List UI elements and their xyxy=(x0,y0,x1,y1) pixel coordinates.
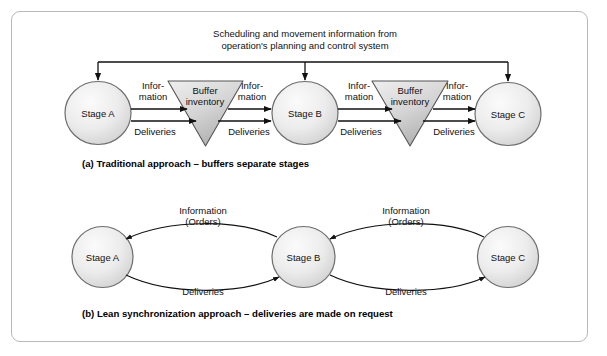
buffer-inventory-2-line1: Buffer xyxy=(391,85,430,96)
link-a-b-panel-b xyxy=(126,224,279,291)
stage-a-node-panel-a: Stage A xyxy=(65,82,131,145)
diagram-canvas: Stage A Stage B Stage C xyxy=(0,0,607,356)
link-b-c-information-line2: (Orders) xyxy=(382,216,430,227)
link-a-b-information-line2: (Orders) xyxy=(179,216,227,227)
stage-b-node-panel-b: Stage B xyxy=(272,227,335,288)
stage-b-label-panel-a: Stage B xyxy=(288,108,322,119)
stage-c-node-panel-a: Stage C xyxy=(475,83,541,146)
flow-3-information-line1: Infor- xyxy=(345,80,374,91)
link-b-c-panel-b xyxy=(330,224,485,291)
panel-a-caption: (a) Traditional approach – buffers separ… xyxy=(82,158,309,169)
figure-root: Stage A Stage B Stage C xyxy=(0,0,607,356)
buffer-inventory-2-label: Buffer inventory xyxy=(391,85,430,107)
flow-4-deliveries-label: Deliveries xyxy=(433,126,475,137)
flow-1-information-line2: mation xyxy=(139,91,168,102)
flow-2-deliveries-label: Deliveries xyxy=(228,126,270,137)
flow-2-information-line2: mation xyxy=(238,91,267,102)
flow-4-information-line2: mation xyxy=(443,91,472,102)
flow-3-information-label: Infor- mation xyxy=(345,80,374,102)
stage-b-label-panel-b: Stage B xyxy=(287,252,321,263)
flow-1-information-label: Infor- mation xyxy=(139,80,168,102)
buffer-inventory-1-line2: inventory xyxy=(186,96,225,107)
buffer-inventory-1-label: Buffer inventory xyxy=(186,85,225,107)
flow-4-information-label: Infor- mation xyxy=(443,80,472,102)
link-b-c-information-label: Information (Orders) xyxy=(382,205,430,227)
link-b-c-information-line1: Information xyxy=(382,205,430,216)
link-a-b-information-line1: Information xyxy=(179,205,227,216)
control-bus-header-line2: operation's planning and control system xyxy=(213,40,397,52)
stage-a-label-panel-a: Stage A xyxy=(81,108,115,119)
control-bus-header-line1: Scheduling and movement information from xyxy=(213,28,397,40)
link-a-b-deliveries-label: Deliveries xyxy=(182,286,224,297)
buffer-inventory-1-line1: Buffer xyxy=(186,85,225,96)
link-b-c-deliveries-label: Deliveries xyxy=(385,286,427,297)
stage-a-label-panel-b: Stage A xyxy=(86,252,120,263)
flow-4-information-line1: Infor- xyxy=(443,80,472,91)
stage-c-node-panel-b: Stage C xyxy=(478,227,539,288)
link-a-b-information-label: Information (Orders) xyxy=(179,205,227,227)
flow-1-deliveries-label: Deliveries xyxy=(134,126,176,137)
stage-b-node-panel-a: Stage B xyxy=(272,82,338,145)
flow-1-information-line1: Infor- xyxy=(139,80,168,91)
stage-c-label-panel-a: Stage C xyxy=(491,109,525,120)
flow-2-information-line1: Infor- xyxy=(238,80,267,91)
stage-a-node-panel-b: Stage A xyxy=(72,227,133,288)
flow-3-information-line2: mation xyxy=(345,91,374,102)
stage-c-label-panel-b: Stage C xyxy=(491,252,525,263)
control-bus xyxy=(98,62,508,81)
control-bus-header: Scheduling and movement information from… xyxy=(213,28,397,52)
buffer-inventory-2-line2: inventory xyxy=(391,96,430,107)
panel-b-caption: (b) Lean synchronization approach – deli… xyxy=(82,308,393,319)
flow-3-deliveries-label: Deliveries xyxy=(340,126,382,137)
flow-2-information-label: Infor- mation xyxy=(238,80,267,102)
